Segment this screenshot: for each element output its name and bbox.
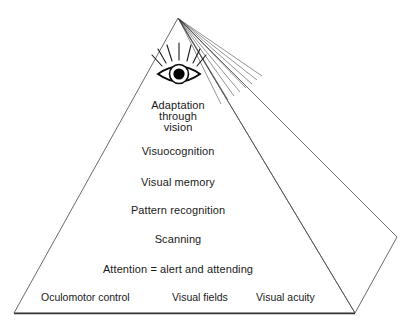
base-label-visual-fields: Visual fields xyxy=(172,291,228,303)
base-label-oculomotor-control: Oculomotor control xyxy=(41,291,130,303)
pyramid-diagram: Adaptation through vision Visuocognition… xyxy=(0,0,409,330)
tier-label-adaptation-line3: vision xyxy=(0,121,356,133)
tier-label-visual-memory: Visual memory xyxy=(0,176,356,188)
tier-label-scanning: Scanning xyxy=(0,233,356,245)
eye-rays-icon xyxy=(152,43,206,66)
apex-shading-fan xyxy=(179,19,262,104)
tier-label-pattern-recognition: Pattern recognition xyxy=(0,204,356,216)
tier-label-attention: Attention = alert and attending xyxy=(0,263,356,275)
tier-label-visuocognition: Visuocognition xyxy=(0,145,356,157)
pyramid-graphic xyxy=(0,0,409,330)
eye-icon xyxy=(158,65,200,84)
base-label-visual-acuity: Visual acuity xyxy=(256,291,315,303)
